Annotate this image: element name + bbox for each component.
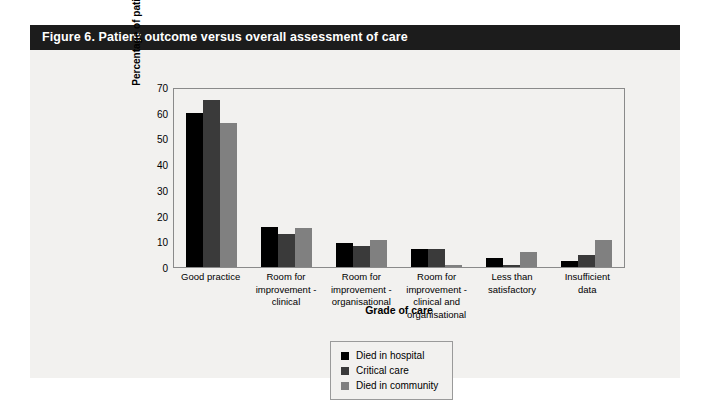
y-axis-tick-label: 40: [128, 160, 168, 171]
y-axis-tick-label: 70: [128, 83, 168, 94]
legend-item[interactable]: Died in hospital: [341, 348, 438, 363]
chart-area: Percentage of patients 010203040506070 G…: [30, 50, 680, 378]
y-axis-tick-label: 50: [128, 134, 168, 145]
y-axis-tick-label: 10: [128, 237, 168, 248]
bar[interactable]: [203, 100, 220, 267]
bar[interactable]: [295, 228, 312, 267]
bar-group: [174, 89, 249, 267]
bar[interactable]: [428, 249, 445, 267]
y-axis-tick-label: 20: [128, 211, 168, 222]
bar-group: [249, 89, 324, 267]
legend-label: Died in hospital: [356, 350, 424, 361]
x-axis-title: Grade of care: [173, 304, 625, 316]
bar[interactable]: [445, 265, 462, 267]
legend-swatch-icon: [341, 382, 349, 390]
bar[interactable]: [186, 113, 203, 267]
figure-caption: Figure 6. Patient outcome versus overall…: [30, 25, 680, 50]
bar[interactable]: [578, 255, 595, 267]
legend-swatch-icon: [341, 352, 349, 360]
figure-card: Figure 6. Patient outcome versus overall…: [30, 25, 680, 378]
legend-label: Died in community: [356, 380, 438, 391]
bar-group: [474, 89, 549, 267]
bar[interactable]: [411, 249, 428, 267]
legend-label: Critical care: [356, 365, 409, 376]
bar[interactable]: [486, 258, 503, 267]
bar[interactable]: [503, 265, 520, 267]
bar[interactable]: [353, 246, 370, 267]
y-axis-tick-label: 30: [128, 185, 168, 196]
bar[interactable]: [520, 252, 537, 267]
chart-legend: Died in hospitalCritical careDied in com…: [330, 341, 453, 400]
bar[interactable]: [595, 240, 612, 267]
bar[interactable]: [220, 123, 237, 267]
legend-swatch-icon: [341, 367, 349, 375]
bar-group: [549, 89, 624, 267]
plot-inner: [174, 89, 624, 267]
bar-group: [324, 89, 399, 267]
legend-item[interactable]: Critical care: [341, 363, 438, 378]
bar[interactable]: [278, 234, 295, 267]
bar[interactable]: [561, 261, 578, 267]
bar[interactable]: [336, 243, 353, 267]
legend-item[interactable]: Died in community: [341, 378, 438, 393]
y-axis-tick-label: 60: [128, 108, 168, 119]
y-axis-tick-label: 0: [128, 263, 168, 274]
bar-group: [399, 89, 474, 267]
plot-area: [173, 88, 625, 268]
bar[interactable]: [370, 240, 387, 267]
y-axis-title: Percentage of patients: [131, 0, 142, 112]
bar[interactable]: [261, 227, 278, 267]
bar-groups: [174, 89, 624, 267]
